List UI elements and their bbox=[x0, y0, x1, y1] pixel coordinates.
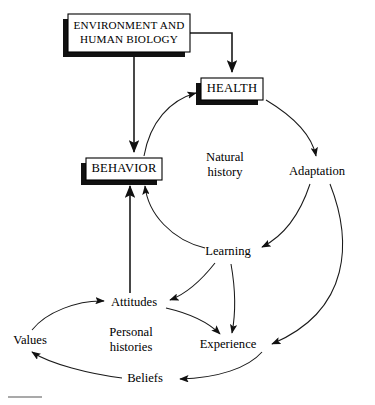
values-label: Values bbox=[13, 333, 47, 347]
adaptation-label: Adaptation bbox=[289, 164, 346, 178]
edge-learning-to-attitudes bbox=[170, 263, 215, 300]
learning-label-line-0: Learning bbox=[205, 244, 251, 258]
environment-box-label-line-0: ENVIRONMENT AND bbox=[73, 19, 184, 31]
natural-history-label: Naturalhistory bbox=[206, 150, 244, 179]
edge-learning-to-experience bbox=[231, 264, 235, 333]
learning-label: Learning bbox=[205, 244, 251, 258]
diagram-root: ENVIRONMENT ANDHUMAN BIOLOGYHEALTHBEHAVI… bbox=[0, 0, 375, 405]
edge-health-to-adaptation bbox=[266, 100, 316, 156]
natural-history-label-line-1: history bbox=[208, 165, 244, 179]
natural-history-label-line-0: Natural bbox=[206, 150, 244, 164]
edge-values-to-attitudes bbox=[32, 301, 104, 330]
edge-learning-to-behavior bbox=[145, 186, 205, 248]
beliefs-label-line-0: Beliefs bbox=[127, 371, 163, 385]
diagram-canvas: ENVIRONMENT ANDHUMAN BIOLOGYHEALTHBEHAVI… bbox=[0, 0, 375, 405]
environment-box: ENVIRONMENT ANDHUMAN BIOLOGY bbox=[63, 14, 190, 57]
environment-box-label-line-1: HUMAN BIOLOGY bbox=[80, 33, 178, 45]
edge-experience-to-beliefs bbox=[180, 352, 262, 379]
attitudes-label: Attitudes bbox=[111, 295, 157, 309]
edges-layer bbox=[32, 33, 343, 379]
personal-histories-label-line-0: Personal bbox=[109, 325, 153, 339]
adaptation-label-line-0: Adaptation bbox=[289, 164, 346, 178]
personal-histories-label: Personalhistories bbox=[109, 325, 153, 354]
behavior-box: BEHAVIOR bbox=[81, 158, 162, 185]
behavior-box-label-line-0: BEHAVIOR bbox=[91, 161, 156, 175]
health-box: HEALTH bbox=[196, 78, 263, 105]
edge-environment-to-health bbox=[190, 33, 232, 72]
nodes-layer: NaturalhistoryAdaptationLearningAttitude… bbox=[13, 150, 345, 385]
values-label-line-0: Values bbox=[13, 333, 47, 347]
edge-attitudes-to-experience bbox=[166, 308, 220, 334]
attitudes-label-line-0: Attitudes bbox=[111, 295, 157, 309]
edge-adaptation-to-learning bbox=[262, 184, 310, 247]
personal-histories-label-line-1: histories bbox=[110, 340, 153, 354]
health-box-label-line-0: HEALTH bbox=[207, 81, 257, 95]
edge-adaptation-to-experience bbox=[272, 184, 343, 344]
beliefs-label: Beliefs bbox=[127, 371, 163, 385]
edge-behavior-to-health bbox=[144, 93, 196, 156]
experience-label-line-0: Experience bbox=[200, 337, 257, 351]
edge-beliefs-to-values bbox=[32, 352, 122, 378]
experience-label: Experience bbox=[200, 337, 257, 351]
